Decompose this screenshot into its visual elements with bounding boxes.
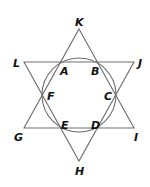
point-label-k: K [75, 16, 85, 29]
triangle-kig [24, 29, 134, 128]
point-label-b: B [91, 65, 99, 78]
point-label-f: F [47, 90, 55, 103]
point-label-a: A [59, 65, 69, 78]
point-label-d: D [91, 119, 100, 132]
point-label-i: I [134, 131, 138, 144]
point-label-g: G [14, 131, 23, 144]
point-label-j: J [136, 57, 142, 70]
point-label-l: L [13, 57, 20, 70]
point-label-h: H [75, 165, 84, 178]
triangle-ljh [24, 62, 134, 161]
point-label-c: C [104, 90, 112, 103]
point-label-e: E [61, 119, 69, 132]
hexagram-diagram: KLJABFCEDGIH [0, 0, 150, 187]
